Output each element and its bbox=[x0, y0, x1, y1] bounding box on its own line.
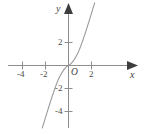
x-axis-label: x bbox=[130, 70, 134, 80]
y-tick-label-minus4: -4 bbox=[55, 107, 63, 116]
x-tick-label-minus4: -4 bbox=[17, 70, 25, 79]
origin-label: O bbox=[71, 68, 78, 78]
y-tick-label-minus2: -2 bbox=[55, 84, 63, 93]
cubic-function-graph-figure: y x O -4 -2 2 2 -2 -4 bbox=[0, 0, 145, 134]
x-tick-label-minus2: -2 bbox=[40, 70, 48, 79]
y-tick-label-2: 2 bbox=[58, 38, 63, 47]
x-tick-label-2: 2 bbox=[89, 70, 94, 79]
y-axis-label: y bbox=[56, 4, 60, 14]
y-axis-arrowhead-icon bbox=[64, 3, 73, 14]
